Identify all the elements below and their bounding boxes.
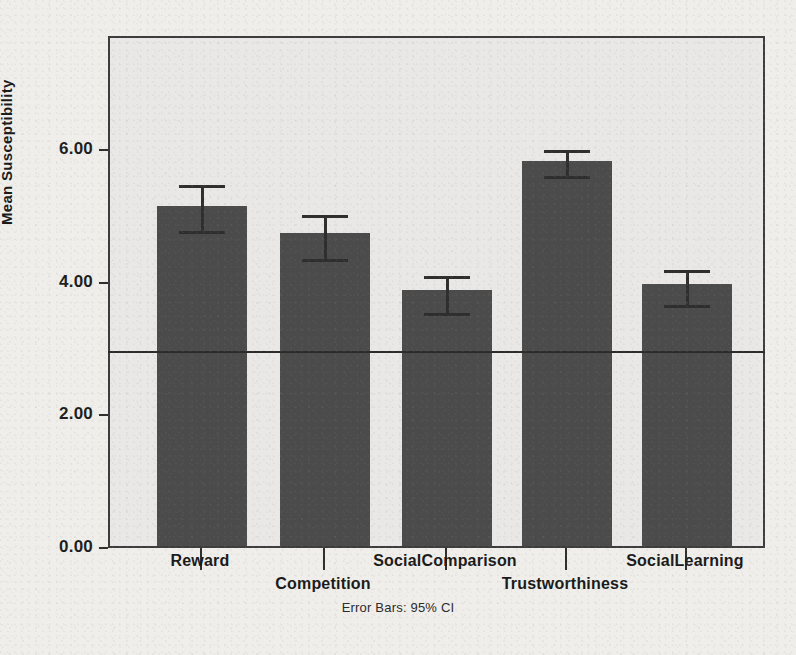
plot-area xyxy=(108,36,765,548)
reference-line xyxy=(108,351,765,353)
error-bar-cap-lower xyxy=(544,176,590,179)
bar-chart-figure: Mean Susceptibility Error Bars: 95% CI 0… xyxy=(0,0,796,655)
error-bar-sociallearning xyxy=(664,270,710,308)
error-bar-footnote: Error Bars: 95% CI xyxy=(0,600,796,615)
error-bar-cap-lower xyxy=(179,231,225,234)
error-bar-cap-lower xyxy=(664,305,710,308)
x-tick-mark-trustworthiness xyxy=(565,548,567,570)
y-tick-mark-4.00 xyxy=(99,282,108,284)
error-bar-cap-lower xyxy=(424,313,470,316)
plot-inner xyxy=(110,38,763,546)
error-bar-stem xyxy=(566,150,569,179)
y-axis-title: Mean Susceptibility xyxy=(0,25,15,225)
error-bar-stem xyxy=(446,276,449,316)
error-bar-cap-upper xyxy=(664,270,710,273)
x-axis-label-trustworthiness: Trustworthiness xyxy=(455,575,675,593)
y-tick-label-2.00: 2.00 xyxy=(3,404,93,424)
error-bar-cap-lower xyxy=(302,259,348,262)
bar-competition xyxy=(280,233,370,546)
x-axis-label-socialcomparison: SocialComparison xyxy=(335,552,555,570)
error-bar-competition xyxy=(302,215,348,262)
error-bar-stem xyxy=(686,270,689,308)
error-bar-socialcomparison xyxy=(424,276,470,316)
y-tick-mark-0.00 xyxy=(99,547,108,549)
y-tick-mark-6.00 xyxy=(99,149,108,151)
bar-reward xyxy=(157,206,247,546)
y-tick-label-0.00: 0.00 xyxy=(3,537,93,557)
error-bar-reward xyxy=(179,185,225,234)
y-tick-label-6.00: 6.00 xyxy=(3,139,93,159)
x-axis-label-competition: Competition xyxy=(213,575,433,593)
y-tick-label-4.00: 4.00 xyxy=(3,272,93,292)
error-bar-stem xyxy=(324,215,327,262)
bar-socialcomparison xyxy=(402,290,492,546)
error-bar-cap-upper xyxy=(544,150,590,153)
x-axis-label-sociallearning: SocialLearning xyxy=(575,552,795,570)
bar-sociallearning xyxy=(642,284,732,546)
error-bar-stem xyxy=(201,185,204,234)
error-bar-cap-upper xyxy=(179,185,225,188)
error-bar-cap-upper xyxy=(302,215,348,218)
y-tick-mark-2.00 xyxy=(99,414,108,416)
x-axis-label-reward: Reward xyxy=(90,552,310,570)
bar-trustworthiness xyxy=(522,161,612,546)
x-tick-mark-competition xyxy=(323,548,325,570)
error-bar-cap-upper xyxy=(424,276,470,279)
error-bar-trustworthiness xyxy=(544,150,590,179)
